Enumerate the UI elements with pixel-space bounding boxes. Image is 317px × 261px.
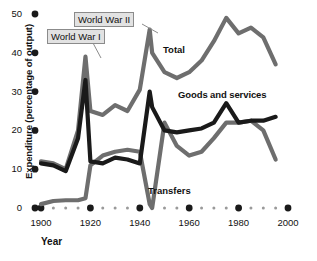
x-axis-minor-dot — [163, 207, 166, 210]
x-axis-minor-dot — [175, 207, 178, 210]
x-tick-label-1920: 1920 — [70, 218, 110, 228]
x-axis-minor-dot — [64, 207, 67, 210]
x-axis-dots — [38, 205, 292, 212]
x-axis-minor-dot — [249, 207, 252, 210]
y-axis-dot — [32, 49, 39, 56]
x-tick-label-1940: 1940 — [120, 218, 160, 228]
x-axis-major-dot — [285, 205, 292, 212]
x-axis-minor-dot — [101, 207, 104, 210]
x-tick-label-1980: 1980 — [219, 218, 259, 228]
series-label-goods-and-services: Goods and services — [178, 89, 267, 100]
x-axis-major-dot — [87, 205, 94, 212]
expenditure-line-chart: Expenditure (percentage of output) 01020… — [0, 0, 317, 261]
y-axis-dot — [32, 11, 39, 18]
x-axis-minor-dot — [225, 207, 228, 210]
series-label-transfers: Transfers — [148, 185, 191, 196]
annotation-world-war-1: World War I — [47, 29, 105, 44]
y-axis-dot — [32, 205, 39, 212]
ww1-leader-line — [93, 43, 101, 58]
x-tick-label-2000: 2000 — [268, 218, 308, 228]
x-axis-major-dot — [136, 205, 143, 212]
x-axis-minor-dot — [126, 207, 129, 210]
x-axis-minor-dot — [274, 207, 277, 210]
x-axis-major-dot — [186, 205, 193, 212]
x-axis-minor-dot — [77, 207, 80, 210]
cropped-caption-line — [22, 252, 312, 261]
y-axis-dots — [32, 11, 39, 212]
x-axis-minor-dot — [212, 207, 215, 210]
annotation-world-war-2: World War II — [74, 12, 134, 27]
x-axis-minor-dot — [262, 207, 265, 210]
x-axis-minor-dot — [200, 207, 203, 210]
y-axis-dot — [32, 88, 39, 95]
y-axis-dot — [32, 166, 39, 173]
x-axis-major-dot — [235, 205, 242, 212]
y-axis-dot — [32, 127, 39, 134]
x-tick-label-1960: 1960 — [169, 218, 209, 228]
x-axis-minor-dot — [114, 207, 117, 210]
x-axis-minor-dot — [52, 207, 55, 210]
series-label-total: Total — [163, 44, 185, 55]
x-axis-title: Year — [41, 236, 62, 247]
x-tick-label-1900: 1900 — [21, 218, 61, 228]
